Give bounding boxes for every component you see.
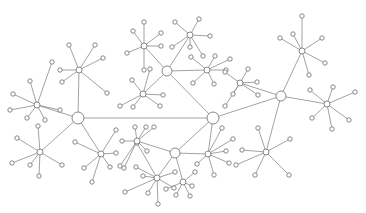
leaf-node (114, 128, 118, 132)
cluster-node (98, 151, 104, 157)
leaf-node (25, 116, 29, 120)
leaf-node (170, 45, 174, 49)
edge (327, 104, 349, 120)
leaf-node (240, 148, 244, 152)
cluster-node (237, 80, 243, 86)
leaf-node (174, 193, 178, 197)
leaf-node (164, 187, 168, 191)
leaf-node (253, 173, 257, 177)
leaf-node (50, 60, 54, 64)
leaf-node (93, 43, 97, 47)
cluster-node (140, 91, 146, 97)
edge (266, 152, 289, 175)
leaf-node (133, 125, 137, 129)
leaf-node (118, 104, 122, 108)
leaf-node (142, 68, 146, 72)
leaf-node (212, 82, 216, 86)
leaf-node (188, 45, 192, 49)
leaf-node (195, 162, 199, 166)
leaf-node (145, 149, 149, 153)
edge (266, 96, 281, 152)
leaf-node (223, 70, 227, 74)
leaf-node (144, 125, 148, 129)
cluster-node (37, 149, 43, 155)
edge (120, 94, 143, 106)
hub-node (276, 91, 286, 101)
leaf-node (120, 139, 124, 143)
leaf-node (28, 163, 32, 167)
leaf-node (90, 180, 94, 184)
leaf-node (223, 104, 227, 108)
leaf-node (307, 73, 311, 77)
leaf-node (172, 186, 176, 190)
edge (302, 38, 322, 51)
edge (78, 70, 79, 118)
leaf-node (173, 20, 177, 24)
leaf-node (213, 54, 217, 58)
leaf-node (161, 93, 165, 97)
leaf-node (288, 137, 292, 141)
hub-node (162, 66, 172, 76)
leaf-node (331, 85, 335, 89)
leaf-node (320, 36, 324, 40)
leaf-node (330, 127, 334, 131)
cluster-node (76, 67, 82, 73)
leaf-node (308, 88, 312, 92)
edge (258, 128, 266, 152)
leaf-node (201, 54, 205, 58)
leaf-node (234, 163, 238, 167)
edge (242, 150, 266, 152)
edge (302, 51, 325, 63)
leaf-node (220, 126, 224, 130)
cluster-node (34, 102, 40, 108)
leaf-node (291, 32, 295, 36)
leaf-node (158, 104, 162, 108)
edge (157, 178, 158, 204)
cluster-node (154, 175, 160, 181)
leaf-node (173, 170, 177, 174)
edge (175, 118, 213, 153)
edge (13, 94, 37, 105)
leaf-node (10, 161, 14, 165)
cluster-node (205, 151, 211, 157)
leaf-node (60, 163, 64, 167)
edge (281, 51, 302, 96)
edge (79, 70, 107, 93)
leaf-node (159, 44, 163, 48)
edge (240, 83, 281, 96)
edge (38, 126, 40, 152)
leaf-node (231, 137, 235, 141)
edge (10, 105, 37, 110)
edge (39, 152, 40, 176)
leaf-node (148, 67, 152, 71)
leaf-node (8, 108, 12, 112)
hub-node (170, 148, 180, 158)
leaf-node (82, 166, 86, 170)
leaf-node (15, 136, 19, 140)
leaf-node (58, 108, 62, 112)
leaf-node (212, 173, 216, 177)
leaf-node (193, 170, 197, 174)
leaf-node (131, 29, 135, 33)
leaf-node (256, 126, 260, 130)
leaf-node (122, 166, 126, 170)
cluster-node (324, 101, 330, 107)
leaf-node (105, 91, 109, 95)
edge (167, 71, 213, 118)
edge (327, 104, 332, 129)
leaf-node (310, 116, 314, 120)
nodes (8, 14, 357, 206)
leaf-node (152, 125, 156, 129)
leaf-node (142, 20, 146, 24)
edge (236, 152, 266, 165)
edge (255, 152, 266, 175)
leaf-node (67, 43, 71, 47)
leaf-node (189, 55, 193, 59)
edge (17, 138, 40, 152)
cluster-node (263, 149, 269, 155)
leaf-node (228, 57, 232, 61)
edge (327, 92, 355, 104)
edge (69, 45, 79, 70)
leaf-node (146, 191, 150, 195)
leaf-node (256, 93, 260, 97)
